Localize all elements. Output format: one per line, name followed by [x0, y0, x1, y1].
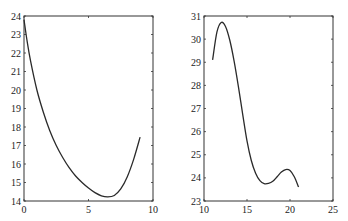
x-tick-label: 15 [242, 204, 252, 215]
left-plot: 05101415161718192021222324 [11, 11, 158, 216]
y-tick-label: 16 [11, 159, 21, 170]
axes-box [204, 16, 333, 201]
data-curve [24, 20, 140, 197]
data-curve [213, 22, 299, 187]
x-tick-label: 10 [148, 204, 158, 215]
y-tick-label: 23 [11, 29, 21, 40]
axes-box [24, 16, 153, 201]
y-tick-label: 19 [11, 103, 21, 114]
y-tick-label: 26 [191, 126, 201, 137]
y-tick-label: 14 [11, 196, 21, 207]
y-tick-label: 18 [11, 122, 21, 133]
x-tick-label: 5 [86, 204, 91, 215]
y-tick-label: 25 [191, 149, 201, 160]
right-plot: 10152025232425262728293031 [191, 11, 338, 216]
y-tick-label: 22 [11, 48, 21, 59]
y-tick-label: 31 [191, 11, 201, 22]
x-tick-label: 25 [328, 204, 338, 215]
x-tick-label: 20 [285, 204, 295, 215]
y-tick-label: 27 [191, 103, 201, 114]
x-tick-label: 0 [22, 204, 27, 215]
chart-canvas: 05101415161718192021222324 1015202523242… [0, 0, 348, 221]
y-tick-label: 28 [191, 80, 201, 91]
y-tick-label: 21 [11, 66, 21, 77]
y-tick-label: 24 [11, 11, 21, 22]
y-tick-label: 24 [191, 172, 201, 183]
y-tick-label: 30 [191, 34, 201, 45]
y-tick-label: 15 [11, 177, 21, 188]
y-tick-label: 20 [11, 85, 21, 96]
y-tick-label: 29 [191, 57, 201, 68]
y-tick-label: 23 [191, 196, 201, 207]
y-tick-label: 17 [11, 140, 21, 151]
